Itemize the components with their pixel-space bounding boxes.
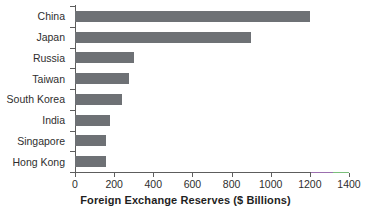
x-axis-tick-label: 200 [105,178,123,190]
category-label: Hong Kong [12,156,65,168]
y-axis-tick [70,89,75,90]
y-axis-tick [70,6,75,7]
category-label: South Korea [7,93,65,105]
y-axis-tick [70,110,75,111]
bar [75,156,106,167]
axis-artifact-purple [311,172,333,173]
x-axis-tick-label: 0 [72,178,78,190]
category-label: Japan [36,31,65,43]
x-axis-tick [192,173,193,177]
x-axis-tick-label: 400 [145,178,163,190]
bar [75,32,251,43]
x-axis-tick-label: 1200 [298,178,321,190]
x-axis-tick [232,173,233,177]
plot-area [75,6,349,172]
category-label: Singapore [17,135,65,147]
bar [75,94,122,105]
bar [75,52,134,63]
axis-artifact-green [333,172,349,173]
x-axis-tick [271,173,272,177]
category-axis-labels: ChinaJapanRussiaTaiwanSouth KoreaIndiaSi… [0,6,70,172]
x-axis-tick [75,173,76,177]
x-axis-tick-label: 1400 [337,178,360,190]
y-axis-tick [70,48,75,49]
bar [75,135,106,146]
x-axis-title: Foreign Exchange Reserves ($ Billions) [0,194,371,206]
bar [75,115,110,126]
y-axis-tick [70,131,75,132]
y-axis-tick [70,27,75,28]
x-axis-tick-label: 600 [184,178,202,190]
category-label: Taiwan [32,73,65,85]
x-axis-tick [114,173,115,177]
x-axis-tick [153,173,154,177]
bar [75,73,129,84]
bar-chart: ChinaJapanRussiaTaiwanSouth KoreaIndiaSi… [0,0,371,213]
x-axis-tick-label: 1000 [259,178,282,190]
category-label: China [38,10,65,22]
y-axis-tick [70,151,75,152]
bar [75,11,310,22]
x-axis-tick-label: 800 [223,178,241,190]
category-label: India [42,114,65,126]
y-axis-tick [70,68,75,69]
x-axis-line [75,172,349,173]
x-axis-tick [310,173,311,177]
category-label: Russia [33,52,65,64]
x-axis-tick [349,173,350,177]
